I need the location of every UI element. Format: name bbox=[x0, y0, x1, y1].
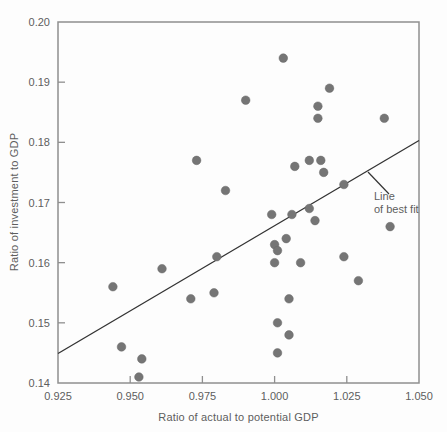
data-point bbox=[282, 234, 291, 243]
y-tick-label: 0.15 bbox=[29, 317, 50, 329]
data-point bbox=[117, 343, 126, 352]
scatter-chart-figure: 0.9250.9500.9751.0001.0251.0500.140.150.… bbox=[0, 0, 447, 432]
x-tick-label: 0.975 bbox=[189, 390, 217, 402]
data-point bbox=[273, 319, 282, 328]
x-tick-label: 1.000 bbox=[261, 390, 289, 402]
data-point bbox=[285, 331, 294, 340]
data-point bbox=[311, 216, 320, 225]
data-point bbox=[109, 282, 118, 291]
x-axis-title: Ratio of actual to potential GDP bbox=[58, 411, 419, 423]
data-point bbox=[314, 114, 323, 123]
data-point bbox=[138, 355, 147, 364]
x-tick-label: 0.925 bbox=[44, 390, 72, 402]
data-point bbox=[340, 180, 349, 189]
data-point bbox=[273, 349, 282, 358]
data-point bbox=[305, 156, 314, 165]
data-point bbox=[340, 252, 349, 261]
data-point bbox=[158, 264, 167, 273]
data-point bbox=[213, 252, 222, 261]
x-tick-label: 1.050 bbox=[405, 390, 433, 402]
y-tick-label: 0.14 bbox=[29, 377, 50, 389]
data-point bbox=[267, 210, 276, 219]
y-axis-title: Ratio of investment to GDP bbox=[8, 72, 20, 332]
plot-border bbox=[58, 22, 419, 383]
annotation-line2: of best fit bbox=[374, 203, 419, 216]
y-tick-label: 0.18 bbox=[29, 136, 50, 148]
y-tick-label: 0.17 bbox=[29, 197, 50, 209]
x-tick-label: 1.025 bbox=[333, 390, 361, 402]
y-tick-label: 0.20 bbox=[29, 16, 50, 28]
data-point bbox=[273, 246, 282, 255]
annotation-label: Line of best fit bbox=[374, 190, 419, 216]
y-tick-label: 0.19 bbox=[29, 76, 50, 88]
data-point bbox=[210, 289, 219, 298]
data-point bbox=[354, 276, 363, 285]
data-point bbox=[296, 258, 305, 267]
data-point bbox=[221, 186, 230, 195]
y-tick-label: 0.16 bbox=[29, 257, 50, 269]
data-point bbox=[305, 204, 314, 213]
data-point bbox=[291, 162, 300, 171]
annotation-line1: Line bbox=[374, 190, 419, 203]
data-point bbox=[288, 210, 297, 219]
data-point bbox=[319, 168, 328, 177]
data-point bbox=[285, 295, 294, 304]
data-point bbox=[192, 156, 201, 165]
data-point bbox=[241, 96, 250, 105]
data-point bbox=[314, 102, 323, 111]
data-point bbox=[317, 156, 326, 165]
data-point bbox=[380, 114, 389, 123]
plot-area: 0.9250.9500.9751.0001.0251.0500.140.150.… bbox=[0, 0, 447, 432]
data-point bbox=[270, 258, 279, 267]
x-tick-label: 0.950 bbox=[116, 390, 144, 402]
data-point bbox=[386, 222, 395, 231]
data-point bbox=[135, 373, 144, 382]
data-point bbox=[187, 295, 196, 304]
data-point bbox=[279, 54, 288, 63]
best-fit-line bbox=[58, 141, 419, 354]
data-point bbox=[325, 84, 334, 93]
